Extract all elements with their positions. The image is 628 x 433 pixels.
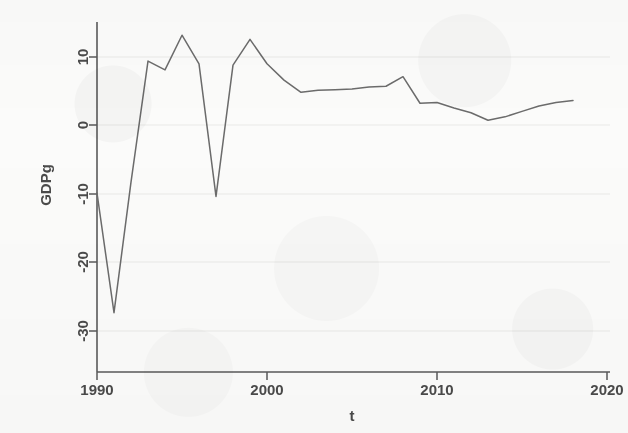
x-axis-ticks bbox=[97, 372, 607, 380]
y-tick-label-10: 10 bbox=[74, 49, 91, 66]
y-tick-label-neg20: -20 bbox=[74, 251, 91, 273]
x-tick-label-1990: 1990 bbox=[80, 381, 113, 398]
x-tick-label-2000: 2000 bbox=[250, 381, 283, 398]
x-axis-title: t bbox=[350, 407, 355, 424]
y-tick-label-neg10: -10 bbox=[74, 183, 91, 205]
y-axis-title: GDPg bbox=[37, 164, 54, 206]
y-tick-label-0: 0 bbox=[74, 121, 91, 129]
y-tick-label-neg30: -30 bbox=[74, 320, 91, 342]
x-tick-label-2020: 2020 bbox=[590, 381, 623, 398]
plot-background bbox=[97, 22, 610, 372]
chart-page: 10 0 -10 -20 -30 GDPg 1990 2000 2010 202… bbox=[0, 0, 628, 433]
x-tick-label-2010: 2010 bbox=[420, 381, 453, 398]
gdp-growth-line-chart: 10 0 -10 -20 -30 GDPg 1990 2000 2010 202… bbox=[0, 0, 628, 433]
